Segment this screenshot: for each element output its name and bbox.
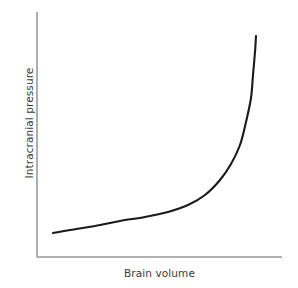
chart-figure: Intracranial pressure Brain volume	[0, 0, 298, 288]
plot-canvas	[0, 0, 298, 288]
x-axis-label: Brain volume	[37, 268, 282, 279]
intracranial-pressure-curve	[53, 36, 256, 233]
y-axis-label: Intracranial pressure	[24, 53, 35, 193]
